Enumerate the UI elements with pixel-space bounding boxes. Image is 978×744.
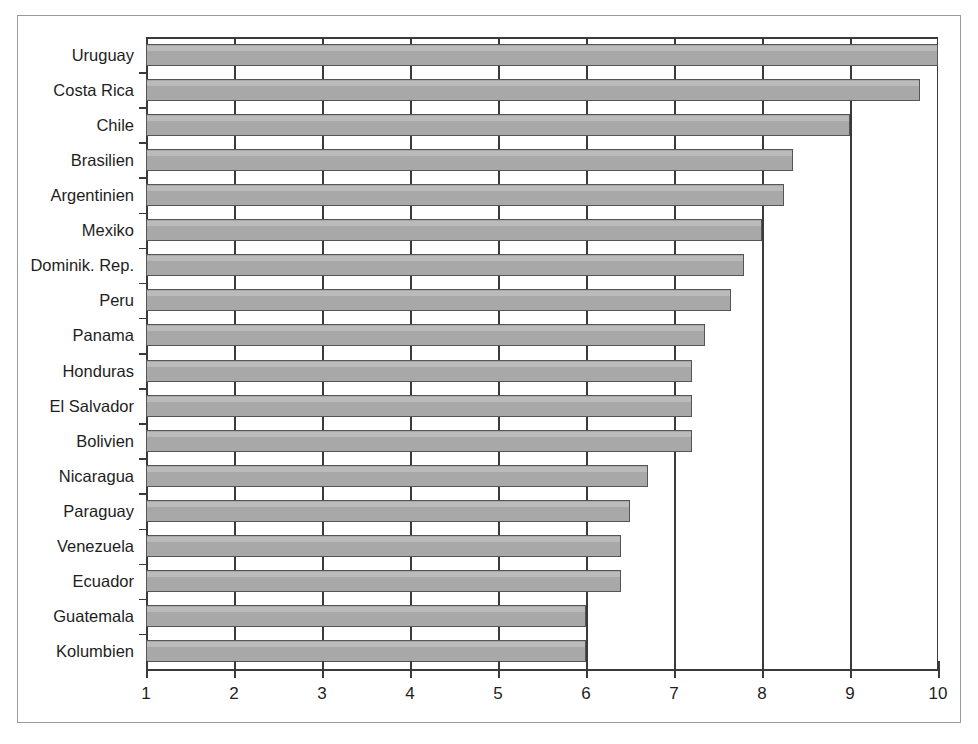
bar-row: Argentinien [146, 177, 938, 212]
y-tick-kolumbien [139, 634, 146, 636]
category-label-costa-rica: Costa Rica [53, 82, 134, 99]
y-tick-ecuador [139, 564, 146, 566]
bar-row: Ecuador [146, 564, 938, 599]
bar-honduras [146, 360, 692, 382]
bar-highlight [147, 642, 585, 647]
x-tick-label-6: 6 [581, 685, 590, 702]
bar-dominik-rep- [146, 254, 744, 276]
category-label-chile: Chile [96, 117, 134, 134]
bar-peru [146, 289, 731, 311]
bar-row: Uruguay [146, 37, 938, 72]
bar-el-salvador [146, 395, 692, 417]
bar-row: Peru [146, 283, 938, 318]
bar-row: Nicaragua [146, 458, 938, 493]
category-label-bolivien: Bolivien [76, 433, 134, 450]
bar-row: Venezuela [146, 529, 938, 564]
x-tick-label-7: 7 [669, 685, 678, 702]
x-tick-label-4: 4 [405, 685, 414, 702]
category-label-dominik-rep-: Dominik. Rep. [30, 257, 134, 274]
x-tick-1 [146, 669, 148, 678]
chart-frame: UruguayCosta RicaChileBrasilienArgentini… [17, 15, 961, 723]
bar-row: Brasilien [146, 142, 938, 177]
category-label-brasilien: Brasilien [71, 152, 134, 169]
x-tick-stub-6 [586, 661, 588, 669]
bar-highlight [147, 151, 792, 156]
category-label-uruguay: Uruguay [72, 47, 134, 64]
x-tick-3 [322, 669, 324, 678]
y-tick-costa-rica [139, 72, 146, 74]
bar-highlight [147, 502, 629, 507]
x-tick-5 [498, 669, 500, 678]
x-tick-stub-2 [234, 661, 236, 669]
bar-row: Costa Rica [146, 72, 938, 107]
y-tick-panama [139, 318, 146, 320]
category-label-mexiko: Mexiko [82, 222, 134, 239]
x-tick-label-3: 3 [317, 685, 326, 702]
y-tick-honduras [139, 353, 146, 355]
x-tick-label-1: 1 [141, 685, 150, 702]
x-tick-8 [762, 669, 764, 678]
bar-highlight [147, 81, 919, 86]
y-tick-dominik-rep- [139, 248, 146, 250]
bar-highlight [147, 362, 691, 367]
y-tick-paraguay [139, 493, 146, 495]
x-tick-7 [674, 669, 676, 678]
x-tick-4 [410, 669, 412, 678]
bar-highlight [147, 256, 743, 261]
bar-highlight [147, 432, 691, 437]
bar-row: El Salvador [146, 388, 938, 423]
bar-paraguay [146, 500, 630, 522]
bar-panama [146, 324, 705, 346]
y-tick-bolivien [139, 423, 146, 425]
bar-costa-rica [146, 79, 920, 101]
bar-highlight [147, 221, 761, 226]
bar-row: Chile [146, 107, 938, 142]
x-tick-label-10: 10 [929, 685, 948, 702]
x-tick-label-8: 8 [757, 685, 766, 702]
y-tick-venezuela [139, 529, 146, 531]
bar-row: Kolumbien [146, 634, 938, 669]
y-tick-el-salvador [139, 388, 146, 390]
bar-bolivien [146, 430, 692, 452]
x-tick-stub-4 [410, 661, 412, 669]
bar-nicaragua [146, 465, 648, 487]
bar-brasilien [146, 149, 793, 171]
bar-highlight [147, 397, 691, 402]
x-tick-9 [850, 669, 852, 678]
category-label-nicaragua: Nicaragua [59, 468, 134, 485]
bar-venezuela [146, 535, 621, 557]
y-tick-peru [139, 283, 146, 285]
category-label-guatemala: Guatemala [53, 608, 134, 625]
x-tick-label-2: 2 [229, 685, 238, 702]
y-tick-guatemala [139, 599, 146, 601]
x-tick-label-5: 5 [493, 685, 502, 702]
x-tick-stub-7 [674, 661, 676, 669]
bar-uruguay [146, 44, 938, 66]
bar-highlight [147, 607, 585, 612]
x-tick-stub-1 [146, 661, 148, 669]
bar-row: Guatemala [146, 599, 938, 634]
bar-argentinien [146, 184, 784, 206]
bar-row: Dominik. Rep. [146, 248, 938, 283]
y-tick-brasilien [139, 142, 146, 144]
bar-row: Mexiko [146, 213, 938, 248]
bar-row: Bolivien [146, 423, 938, 458]
bar-highlight [147, 537, 620, 542]
y-tick-nicaragua [139, 458, 146, 460]
category-label-ecuador: Ecuador [73, 573, 134, 590]
bar-highlight [147, 572, 620, 577]
category-label-paraguay: Paraguay [63, 503, 134, 520]
y-tick-mexiko [139, 213, 146, 215]
x-tick-stub-9 [850, 661, 852, 669]
x-tick-stub-5 [498, 661, 500, 669]
x-tick-2 [234, 669, 236, 678]
x-tick-6 [586, 669, 588, 678]
category-label-el-salvador: El Salvador [50, 398, 134, 415]
x-tick-stub-8 [762, 661, 764, 669]
bar-row: Paraguay [146, 493, 938, 528]
bar-highlight [147, 291, 730, 296]
bar-highlight [147, 46, 937, 51]
y-tick-chile [139, 107, 146, 109]
bar-highlight [147, 326, 704, 331]
category-label-argentinien: Argentinien [51, 187, 134, 204]
